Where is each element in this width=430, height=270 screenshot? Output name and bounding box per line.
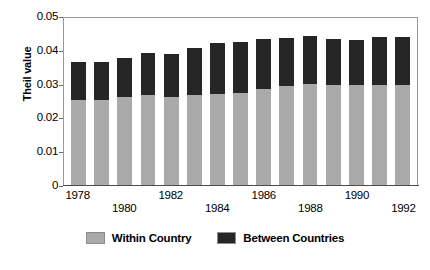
bar-segment-within-country [71, 100, 86, 185]
bar-stack [303, 36, 318, 185]
bar-stack [71, 62, 86, 185]
bar-segment-within-country [395, 85, 410, 185]
bar-stack [349, 40, 364, 185]
x-tick-label: 1982 [158, 189, 182, 201]
bar-segment-between-countries [372, 37, 387, 85]
y-tick-label: 0 [14, 180, 58, 191]
y-tick-mark [59, 85, 63, 86]
bar-stack [187, 48, 202, 185]
bar-segment-within-country [187, 95, 202, 185]
legend-label: Within Country [112, 232, 192, 244]
x-axis-baseline [63, 185, 419, 186]
bar-stack [326, 39, 341, 185]
bar-column [368, 18, 391, 185]
y-tick-label: 0.05 [14, 11, 58, 22]
theil-value-chart: Theil value 0.050.040.030.020.010 197819… [0, 0, 430, 270]
bar-column [113, 18, 136, 185]
legend-item: Between Countries [217, 232, 344, 244]
bar-stack [117, 58, 132, 185]
x-tick-label: 1984 [205, 202, 229, 214]
bar-segment-within-country [94, 100, 109, 185]
bar-segment-between-countries [256, 39, 271, 89]
bar-segment-within-country [117, 97, 132, 185]
bar-column [206, 18, 229, 185]
legend-item: Within Country [86, 232, 192, 244]
bar-column [345, 18, 368, 185]
bar-column [275, 18, 298, 185]
bar-segment-between-countries [395, 37, 410, 85]
bar-segment-between-countries [187, 48, 202, 95]
y-tick-label: 0.04 [14, 45, 58, 56]
bar-column [298, 18, 321, 185]
y-tick-mark [59, 51, 63, 52]
y-tick-label: 0.01 [14, 146, 58, 157]
bar-stack [395, 37, 410, 185]
bar-segment-between-countries [279, 38, 294, 87]
y-tick-mark [59, 152, 63, 153]
bar-stack [141, 53, 156, 185]
x-tick-label: 1986 [252, 189, 276, 201]
bar-segment-within-country [256, 89, 271, 185]
bar-segment-between-countries [210, 43, 225, 94]
bar-column [183, 18, 206, 185]
bar-stack [256, 39, 271, 185]
y-axis-ticks: 0.050.040.030.020.010 [12, 0, 58, 270]
bar-segment-between-countries [94, 62, 109, 100]
bar-segment-within-country [210, 94, 225, 185]
bar-segment-within-country [164, 97, 179, 185]
bar-column [252, 18, 275, 185]
bar-stack [372, 37, 387, 185]
legend-label: Between Countries [243, 232, 344, 244]
x-tick-label: 1990 [345, 189, 369, 201]
y-tick-mark [59, 17, 63, 18]
bar-segment-between-countries [233, 42, 248, 93]
bar-column [391, 18, 414, 185]
plot-area [63, 17, 418, 186]
bar-column [322, 18, 345, 185]
y-tick-label: 0.02 [14, 112, 58, 123]
y-tick-label: 0.03 [14, 79, 58, 90]
bars-container [64, 18, 417, 185]
bar-stack [94, 62, 109, 185]
bar-segment-between-countries [326, 39, 341, 85]
bar-segment-between-countries [117, 58, 132, 97]
bar-column [90, 18, 113, 185]
bar-column [67, 18, 90, 185]
x-tick-label: 1992 [391, 202, 415, 214]
x-tick-label: 1978 [65, 189, 89, 201]
bar-segment-within-country [279, 86, 294, 185]
bar-stack [164, 54, 179, 185]
bar-stack [279, 38, 294, 185]
y-tick-mark [59, 118, 63, 119]
y-tick-mark [59, 186, 63, 187]
bar-segment-within-country [349, 85, 364, 185]
bar-segment-within-country [303, 84, 318, 185]
bar-stack [210, 43, 225, 185]
chart-legend: Within CountryBetween Countries [0, 232, 430, 244]
bar-segment-between-countries [164, 54, 179, 97]
x-tick-label: 1988 [298, 202, 322, 214]
bar-column [136, 18, 159, 185]
bar-segment-between-countries [71, 62, 86, 100]
x-tick-label: 1980 [112, 202, 136, 214]
bar-segment-within-country [141, 95, 156, 185]
bar-stack [233, 42, 248, 185]
bar-column [160, 18, 183, 185]
legend-swatch [86, 232, 105, 244]
bar-segment-between-countries [349, 40, 364, 85]
x-axis-labels: 19781980198219841986198819901992 [63, 188, 418, 228]
bar-segment-within-country [326, 85, 341, 185]
legend-swatch [217, 232, 236, 244]
bar-segment-within-country [233, 93, 248, 185]
bar-column [229, 18, 252, 185]
bar-segment-between-countries [141, 53, 156, 95]
bar-segment-within-country [372, 85, 387, 185]
bar-segment-between-countries [303, 36, 318, 84]
